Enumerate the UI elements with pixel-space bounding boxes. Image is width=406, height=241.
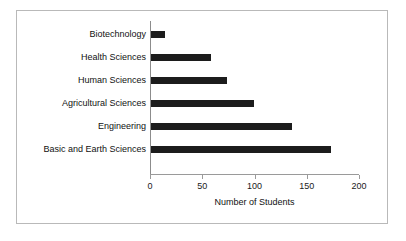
x-tick-0	[150, 175, 151, 179]
x-tick-label-0: 0	[130, 181, 170, 191]
x-axis-title: Number of Students	[150, 197, 359, 207]
x-tick-100	[255, 175, 256, 179]
x-tick-label-200: 200	[339, 181, 379, 191]
category-label-biotechnology: Biotechnology	[89, 29, 146, 39]
x-tick-200	[359, 175, 360, 179]
bar-human-sciences	[151, 77, 227, 84]
x-tick-label-50: 50	[182, 181, 222, 191]
x-tick-label-150: 150	[287, 181, 327, 191]
chart-frame: 050100150200 BiotechnologyHealth Science…	[16, 10, 388, 224]
bar-health-sciences	[151, 54, 211, 61]
bar-agricultural-sciences	[151, 100, 254, 107]
bar-basic-and-earth-sciences	[151, 146, 331, 153]
category-label-basic-and-earth-sciences: Basic and Earth Sciences	[43, 144, 146, 154]
category-label-agricultural-sciences: Agricultural Sciences	[62, 98, 146, 108]
bar-engineering	[151, 123, 292, 130]
bar-biotechnology	[151, 31, 165, 38]
plot-area: 050100150200 BiotechnologyHealth Science…	[17, 11, 389, 225]
category-label-human-sciences: Human Sciences	[78, 75, 146, 85]
x-tick-150	[307, 175, 308, 179]
category-label-engineering: Engineering	[98, 121, 146, 131]
x-tick-50	[202, 175, 203, 179]
category-label-health-sciences: Health Sciences	[81, 52, 146, 62]
x-tick-label-100: 100	[235, 181, 275, 191]
